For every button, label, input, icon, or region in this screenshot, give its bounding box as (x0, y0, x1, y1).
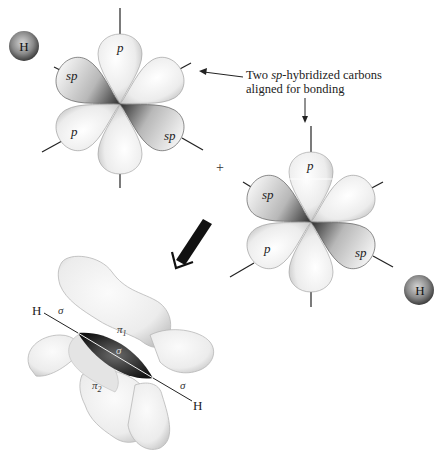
h-label-left: H (32, 303, 41, 318)
sp-axis-line (373, 256, 393, 267)
sp-axis-line (182, 138, 203, 150)
sigma-label-left: σ (58, 304, 64, 316)
hydrogen-label: H (415, 283, 424, 298)
sigma-label-right: σ (180, 379, 186, 391)
pointer-arrow (204, 72, 243, 77)
label-sp: sp (164, 128, 176, 143)
axis-line (42, 141, 62, 152)
label-p: p (70, 124, 78, 139)
caption-text: Two sp-hybridized carbons aligned for bo… (246, 68, 382, 96)
triple-bond-diagram: p sp p sp H p sp p sp H (0, 0, 443, 462)
caption-sp: sp (271, 68, 282, 82)
hydrogen-label: H (19, 39, 28, 54)
caption-prefix: Two (246, 68, 271, 82)
h-label-right: H (193, 398, 202, 413)
right-lobe (150, 330, 214, 373)
label-p: p (306, 158, 314, 173)
hydrogen-atom-top: H (9, 31, 39, 61)
carbon-top (42, 8, 203, 188)
lower-lobe (128, 383, 170, 449)
plus-sign: + (216, 160, 224, 176)
label-p: p (116, 40, 124, 55)
hydrogen-atom-bottom: H (404, 275, 434, 305)
label-sp: sp (66, 68, 78, 83)
reaction-arrow (172, 219, 212, 268)
carbon-bottom (230, 126, 393, 307)
label-sp: sp (262, 187, 274, 202)
caption-suffix: -hybridized carbons (282, 68, 382, 82)
axis-line (230, 263, 254, 277)
arrowhead-icon (199, 68, 207, 75)
c-h-bond-line (44, 313, 78, 333)
arrowhead-icon (302, 116, 308, 123)
label-sp: sp (355, 245, 367, 260)
caption-line-1: Two sp-hybridized carbons (246, 68, 382, 82)
caption-line-2: aligned for bonding (246, 82, 382, 96)
label-p: p (263, 241, 271, 256)
sigma-label-center: σ (116, 344, 122, 356)
